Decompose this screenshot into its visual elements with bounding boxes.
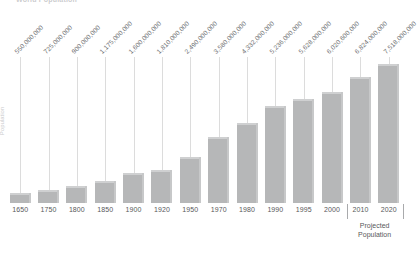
bar-top-highlight [151, 170, 172, 172]
leader-line-1950 [190, 57, 191, 157]
leader-line-1970 [219, 57, 220, 137]
leader-line-2020 [389, 57, 390, 64]
bar-side-highlight [256, 123, 258, 203]
bar-1900 [123, 173, 144, 203]
leader-line-2010 [360, 57, 361, 77]
bar-side-highlight [57, 190, 59, 203]
bar-2020 [378, 64, 399, 203]
bar-top-highlight [322, 92, 343, 94]
bar-side-highlight [199, 157, 201, 203]
bar-side-highlight [142, 173, 144, 203]
bar-top-highlight [208, 137, 229, 139]
bar-side-highlight [114, 181, 116, 203]
bar-side-highlight [369, 77, 371, 203]
x-tick-1950: 1950 [176, 206, 204, 213]
x-tick-1920: 1920 [148, 206, 176, 213]
bar-1800 [66, 186, 87, 203]
bar-top-highlight [378, 64, 399, 66]
bar-side-highlight [284, 106, 286, 203]
x-tick-1970: 1970 [205, 206, 233, 213]
bar-top-highlight [350, 77, 371, 79]
bar-top-highlight [66, 186, 87, 188]
bar-top-highlight [180, 157, 201, 159]
bar-side-highlight [227, 137, 229, 203]
bar-top-highlight [265, 106, 286, 108]
bar-top-highlight [123, 173, 144, 175]
leader-line-1920 [162, 57, 163, 170]
bar-1980 [237, 123, 258, 203]
leader-line-1900 [134, 57, 135, 173]
bar-side-highlight [29, 193, 31, 203]
bar-1850 [95, 181, 116, 203]
bar-top-highlight [38, 190, 59, 192]
leader-line-1990 [275, 57, 276, 106]
x-tick-1800: 1800 [63, 206, 91, 213]
bar-top-highlight [293, 99, 314, 101]
bar-side-highlight [170, 170, 172, 203]
x-tick-1850: 1850 [91, 206, 119, 213]
leader-line-1850 [105, 57, 106, 181]
leader-line-1995 [304, 57, 305, 99]
projected-population-line-2: Population [347, 231, 402, 240]
bar-side-highlight [312, 99, 314, 203]
x-tick-1900: 1900 [119, 206, 147, 213]
value-label-1650: 550,000,000 [13, 24, 44, 55]
bar-side-highlight [341, 92, 343, 203]
leader-line-1750 [49, 57, 50, 190]
bar-1920 [151, 170, 172, 203]
bar-1650 [10, 193, 31, 203]
bar-top-highlight [237, 123, 258, 125]
bar-side-highlight [85, 186, 87, 203]
bar-1950 [180, 157, 201, 203]
bar-2000 [322, 92, 343, 203]
x-tick-1650: 1650 [6, 206, 34, 213]
projected-population-annotation: ProjectedPopulation [347, 222, 402, 239]
leader-line-1800 [77, 57, 78, 186]
projected-population-line-1: Projected [347, 222, 402, 231]
bar-1995 [293, 99, 314, 203]
bar-2010 [350, 77, 371, 203]
value-label-1800: 900,000,000 [70, 24, 101, 55]
x-tick-1980: 1980 [233, 206, 261, 213]
bar-1750 [38, 190, 59, 203]
x-tick-1750: 1750 [34, 206, 62, 213]
bar-top-highlight [10, 193, 31, 195]
x-tick-2010: 2010 [346, 206, 374, 213]
x-tick-2020: 2020 [375, 206, 403, 213]
x-axis: ProjectedPopulation 16501750180018501900… [0, 203, 409, 258]
plot-area: 550,000,000725,000,000900,000,0001,175,0… [0, 0, 409, 203]
x-tick-1995: 1995 [290, 206, 318, 213]
bar-top-highlight [95, 181, 116, 183]
value-label-1750: 725,000,000 [42, 24, 73, 55]
x-tick-2000: 2000 [318, 206, 346, 213]
leader-line-1980 [247, 57, 248, 123]
bar-side-highlight [397, 64, 399, 203]
x-tick-1990: 1990 [261, 206, 289, 213]
bar-1990 [265, 106, 286, 203]
leader-line-1650 [20, 57, 21, 193]
leader-line-2000 [332, 57, 333, 92]
bar-1970 [208, 137, 229, 203]
